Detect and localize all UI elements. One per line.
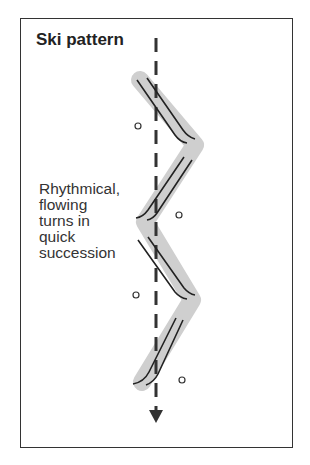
ski-pattern-diagram [0, 0, 310, 465]
arrow-down-icon [149, 410, 163, 423]
circle-marker-icon [133, 292, 139, 298]
circle-marker-icon [179, 377, 185, 383]
circle-marker-icon [135, 123, 141, 129]
circle-marker-icon [176, 212, 182, 218]
